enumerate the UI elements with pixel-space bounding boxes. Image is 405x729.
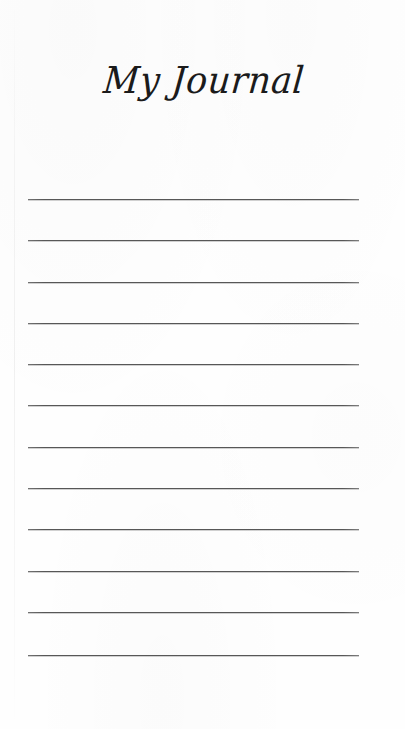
writing-line[interactable] <box>28 199 359 200</box>
writing-line[interactable] <box>28 529 359 530</box>
journal-page: My Journal <box>0 0 405 729</box>
writing-line[interactable] <box>28 282 359 283</box>
writing-lines-area[interactable] <box>0 0 405 729</box>
writing-line[interactable] <box>28 323 359 324</box>
writing-line[interactable] <box>28 447 359 448</box>
writing-line[interactable] <box>28 571 359 572</box>
writing-line[interactable] <box>28 655 359 656</box>
writing-line[interactable] <box>28 240 359 241</box>
writing-line[interactable] <box>28 488 359 489</box>
writing-line[interactable] <box>28 364 359 365</box>
writing-line[interactable] <box>28 405 359 406</box>
writing-line[interactable] <box>28 612 359 613</box>
